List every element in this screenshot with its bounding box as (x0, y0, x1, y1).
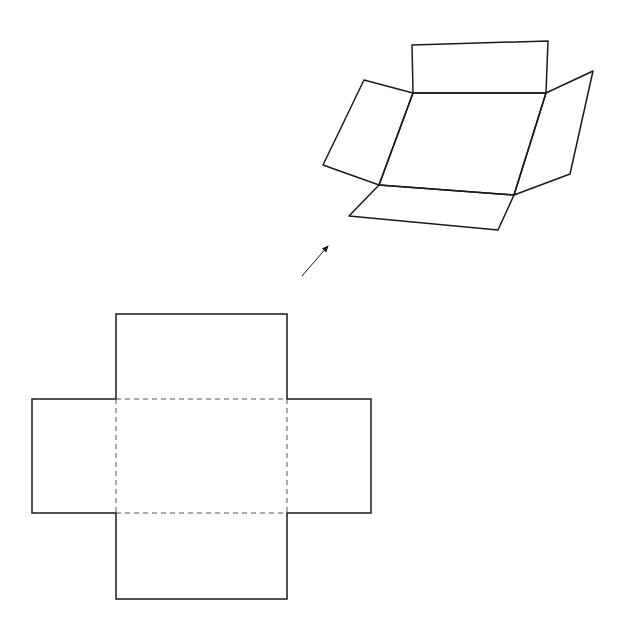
arrow-icon (302, 246, 328, 276)
fold-lines (116, 399, 287, 513)
box-net-diagram (0, 0, 630, 631)
folded-top-flap (412, 41, 548, 93)
folded-left-flap (323, 80, 413, 185)
folded-bottom-flap (349, 185, 514, 230)
folded-base (379, 93, 546, 195)
net-outline (32, 314, 371, 599)
folded-box (323, 41, 593, 230)
folded-right-flap (514, 71, 593, 195)
flat-net (32, 314, 371, 599)
